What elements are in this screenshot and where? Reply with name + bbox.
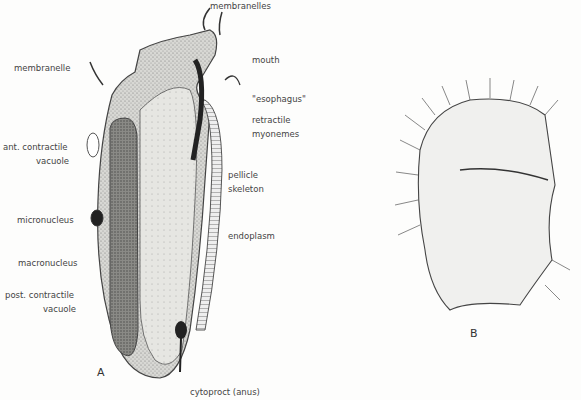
ciliate-anatomy-figure: membranelles membranelle mouth "esophagu… [0,0,581,400]
label-pellicle-skeleton-2: skeleton [228,184,264,195]
label-esophagus: "esophagus" [252,94,306,105]
label-retractile-myonemes-2: myonemes [252,129,299,140]
label-post-contractile-vacuole-1: post. contractile [5,290,74,301]
label-macronucleus: macronucleus [18,258,78,269]
label-cytoproct: cytoproct (anus) [190,387,260,398]
label-membranelle: membranelle [14,63,70,74]
label-micronucleus: micronucleus [17,215,74,226]
label-ant-contractile-vacuole-2: vacuole [36,156,69,167]
label-post-contractile-vacuole-2: vacuole [43,304,76,315]
illustration [0,0,581,400]
organism-b [395,78,570,310]
label-retractile-myonemes-1: retractile [252,115,291,126]
label-ant-contractile-vacuole-1: ant. contractile [3,142,68,153]
label-membranelles: membranelles [210,1,271,12]
panel-label-b: B [470,327,478,340]
label-endoplasm: endoplasm [228,231,275,242]
label-mouth: mouth [252,55,280,66]
label-pellicle-skeleton-1: pellicle [228,170,258,181]
panel-label-a: A [97,366,105,379]
organism-a [87,8,240,378]
